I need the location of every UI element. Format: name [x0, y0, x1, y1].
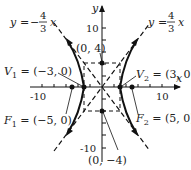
svg-text:=: =: [20, 16, 29, 29]
svg-text:x: x: [50, 16, 57, 29]
svg-text:3: 3: [40, 23, 46, 34]
arrow-icon: [131, 128, 138, 136]
focus-f1: [70, 85, 75, 90]
focus-f2: [130, 85, 135, 90]
vertex-v2: [118, 85, 123, 90]
label-top-point: (0, 4): [76, 42, 106, 55]
asymptote-right-label: y = 4 3 x: [147, 10, 185, 34]
label-v2: V2 = (3, 0): [136, 68, 191, 83]
arrow-icon: [66, 38, 73, 46]
hyperbola-diagram: y x -10 10 10 -10 y = − 4 3 x y =: [0, 0, 191, 170]
x-tick-10: 10: [156, 91, 169, 102]
svg-text:y: y: [9, 16, 17, 29]
y-tick-10: 10: [86, 23, 99, 34]
svg-text:4: 4: [168, 10, 174, 21]
svg-text:=: =: [158, 16, 167, 29]
svg-text:3: 3: [168, 23, 174, 34]
asymptote-left-label: y = − 4 3 x: [9, 10, 57, 34]
svg-text:y: y: [147, 16, 155, 29]
svg-text:x: x: [178, 16, 185, 29]
svg-text:−: −: [30, 16, 39, 29]
arrow-icon: [131, 38, 138, 46]
y-axis-label: y: [91, 2, 99, 15]
label-f1: F1 = (−5, 0): [3, 114, 72, 129]
point-bottom: [100, 109, 105, 114]
label-bottom-point: (0, −4): [88, 154, 127, 167]
x-axis: [30, 84, 180, 87]
label-f2: F2 = (5, 0): [135, 112, 191, 127]
y-tick-neg10: -10: [80, 143, 96, 154]
x-tick-neg10: -10: [30, 91, 46, 102]
label-v1: V1 = (−3, 0): [4, 65, 72, 80]
svg-text:4: 4: [40, 10, 46, 21]
vertex-v1: [82, 85, 87, 90]
arrow-icon: [66, 128, 73, 136]
